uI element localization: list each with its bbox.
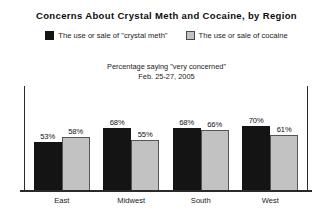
bar-midwest-crystal-meth: 68% <box>103 128 131 191</box>
bar-wrap-east-cocaine: 58% <box>62 86 90 191</box>
bar-west-cocaine: 61% <box>270 135 298 191</box>
bar-value-east-cocaine: 58% <box>68 127 83 136</box>
category-label-west: West <box>236 196 306 205</box>
bar-value-midwest-cocaine: 55% <box>138 130 153 139</box>
subtitle-line-2: Feb. 25-27, 2005 <box>0 72 333 82</box>
category-label-midwest: Midwest <box>97 196 167 205</box>
chart-subtitle: Percentage saying "very concerned" Feb. … <box>0 62 333 81</box>
bar-west-crystal-meth: 70% <box>242 126 270 191</box>
bar-wrap-west-cocaine: 61% <box>270 86 298 191</box>
bar-groups: 53% 58% 68% 55% <box>24 86 308 191</box>
bar-value-west-crystal-meth: 70% <box>249 116 264 125</box>
legend-item-crystal-meth: The use or sale of "crystal meth" <box>45 31 167 40</box>
bar-wrap-south-cocaine: 66% <box>201 86 229 191</box>
bar-group-east: 53% 58% <box>27 86 97 191</box>
bar-wrap-midwest-cocaine: 55% <box>131 86 159 191</box>
bar-group-south: 68% 66% <box>166 86 236 191</box>
bar-value-south-crystal-meth: 68% <box>179 118 194 127</box>
bar-south-cocaine: 66% <box>201 130 229 191</box>
category-label-south: South <box>166 196 236 205</box>
bar-wrap-west-meth: 70% <box>242 86 270 191</box>
bar-south-crystal-meth: 68% <box>173 128 201 191</box>
plot-area: 53% 58% 68% 55% <box>24 86 308 191</box>
bar-value-west-cocaine: 61% <box>277 125 292 134</box>
black-square-swatch-icon <box>45 31 54 40</box>
legend-item-cocaine: The use or sale of cocaine <box>186 31 288 40</box>
chart-title: Concerns About Crystal Meth and Cocaine,… <box>0 10 333 21</box>
bar-chart: Concerns About Crystal Meth and Cocaine,… <box>0 0 333 223</box>
bar-midwest-cocaine: 55% <box>131 140 159 191</box>
x-axis-baseline <box>20 190 312 192</box>
bar-value-south-cocaine: 66% <box>207 120 222 129</box>
subtitle-line-1: Percentage saying "very concerned" <box>0 62 333 72</box>
chart-legend: The use or sale of "crystal meth" The us… <box>0 31 333 40</box>
bar-group-west: 70% 61% <box>236 86 306 191</box>
legend-label-crystal-meth: The use or sale of "crystal meth" <box>58 32 167 40</box>
x-axis-category-labels: East Midwest South West <box>24 196 308 205</box>
category-label-east: East <box>27 196 97 205</box>
bar-wrap-east-meth: 53% <box>34 86 62 191</box>
bar-wrap-south-meth: 68% <box>173 86 201 191</box>
bar-value-east-crystal-meth: 53% <box>40 132 55 141</box>
bar-value-midwest-crystal-meth: 68% <box>110 118 125 127</box>
gray-square-swatch-icon <box>186 31 195 40</box>
bar-group-midwest: 68% 55% <box>97 86 167 191</box>
bar-east-cocaine: 58% <box>62 137 90 191</box>
bar-wrap-midwest-meth: 68% <box>103 86 131 191</box>
bar-east-crystal-meth: 53% <box>34 142 62 191</box>
legend-label-cocaine: The use or sale of cocaine <box>199 32 288 40</box>
